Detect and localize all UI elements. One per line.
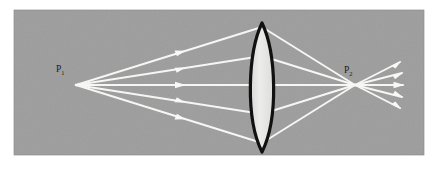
image-point-node: [354, 84, 357, 87]
figure-root: P1 P2: [0, 0, 438, 173]
converging-lens: [250, 23, 273, 152]
ray-diagram-svg: P1 P2: [0, 0, 438, 173]
lens-body: [250, 23, 273, 152]
image-point-label-subscript: 2: [349, 70, 352, 77]
object-point-label-subscript: 1: [61, 69, 64, 76]
object-point-node: [75, 84, 78, 87]
